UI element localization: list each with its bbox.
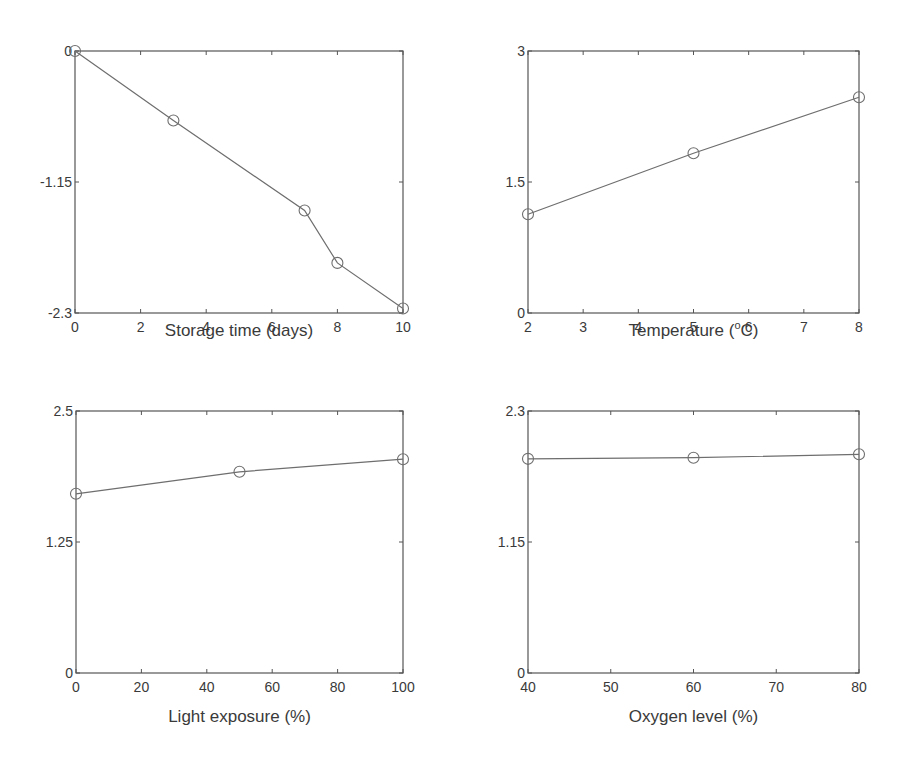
x-tick-label: 60 (686, 679, 702, 695)
x-tick-label: 0 (71, 319, 79, 335)
x-tick-label: 2 (524, 319, 532, 335)
y-tick-label: 0 (64, 43, 72, 59)
x-axis-label: Temperature (oC) (629, 319, 759, 340)
x-tick-label: 10 (395, 319, 411, 335)
data-line (76, 459, 403, 494)
y-tick-label: 2.3 (506, 403, 526, 419)
y-tick-label: 3 (517, 43, 525, 59)
data-line (528, 454, 859, 459)
data-line (528, 97, 859, 214)
subplot-oxygen-level: 405060708001.152.3Oxygen level (%) (498, 403, 867, 726)
x-tick-label: 100 (391, 679, 415, 695)
y-tick-label: -2.3 (48, 305, 72, 321)
axes-box (76, 411, 403, 673)
x-tick-label: 0 (72, 679, 80, 695)
subplot-light-exposure: 02040608010001.252.5Light exposure (%) (46, 403, 415, 726)
x-tick-label: 80 (851, 679, 867, 695)
x-axis-label: Storage time (days) (165, 321, 313, 340)
x-tick-label: 60 (264, 679, 280, 695)
x-tick-label: 8 (855, 319, 863, 335)
y-tick-label: 1.15 (498, 534, 525, 550)
x-tick-label: 70 (768, 679, 784, 695)
axes-box (528, 411, 859, 673)
y-tick-label: 2.5 (54, 403, 74, 419)
x-tick-label: 8 (334, 319, 342, 335)
figure: 0246810-2.3-1.150Storage time (days) 234… (0, 0, 903, 765)
x-tick-label: 40 (520, 679, 536, 695)
x-tick-label: 40 (199, 679, 215, 695)
y-tick-label: 1.5 (506, 174, 526, 190)
subplot-storage-time: 0246810-2.3-1.150Storage time (days) (40, 43, 411, 340)
axes-box (528, 51, 859, 313)
x-axis-label: Light exposure (%) (168, 707, 311, 726)
x-tick-label: 2 (137, 319, 145, 335)
x-tick-label: 80 (330, 679, 346, 695)
data-line (75, 51, 403, 308)
x-tick-label: 50 (603, 679, 619, 695)
y-tick-label: 0 (65, 665, 73, 681)
y-tick-label: -1.15 (40, 174, 72, 190)
y-tick-label: 1.25 (46, 534, 73, 550)
figure-canvas: 0246810-2.3-1.150Storage time (days) 234… (0, 0, 903, 765)
subplot-temperature: 234567801.53Temperature (oC) (506, 43, 865, 340)
x-tick-label: 7 (800, 319, 808, 335)
y-tick-label: 0 (517, 305, 525, 321)
x-axis-label: Oxygen level (%) (629, 707, 758, 726)
x-tick-label: 20 (134, 679, 150, 695)
y-tick-label: 0 (517, 665, 525, 681)
x-tick-label: 3 (579, 319, 587, 335)
